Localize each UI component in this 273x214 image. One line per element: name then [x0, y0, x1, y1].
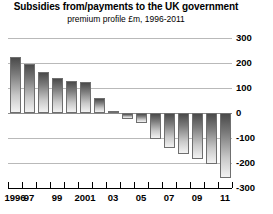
x-axis-tick: [176, 182, 177, 188]
y-axis-tick-label: 200: [236, 58, 270, 68]
bar: [178, 113, 189, 154]
y-axis-tick-label: -200: [236, 158, 270, 168]
bar: [206, 113, 217, 164]
bar: [10, 57, 21, 113]
chart-subtitle: premium profile £m, 1996-2011: [0, 14, 252, 25]
bar: [66, 81, 77, 114]
bar: [80, 82, 91, 113]
x-axis-tick: [120, 182, 121, 188]
x-axis-labels: 1996979920010305070911: [0, 192, 273, 210]
x-axis-tick-label: 11: [220, 192, 230, 203]
x-axis-tick: [148, 182, 149, 188]
bar: [122, 113, 133, 119]
plot-area: [8, 38, 232, 188]
x-axis-tick: [204, 182, 205, 188]
bar: [164, 113, 175, 148]
x-axis-tick: [8, 182, 9, 188]
chart-container: Subsidies from/payments to the UK govern…: [0, 0, 273, 214]
bar-series: [8, 38, 232, 188]
x-axis-tick: [106, 182, 107, 188]
x-axis-tick: [64, 182, 65, 188]
x-axis-tick: [50, 182, 51, 188]
x-axis-tick: [218, 182, 219, 188]
x-axis-tick: [78, 182, 79, 188]
bar: [38, 72, 49, 113]
y-axis-tick-label: 300: [236, 33, 270, 43]
bar: [136, 113, 147, 123]
x-axis-tick-label: 09: [192, 192, 203, 203]
bar: [94, 98, 105, 113]
bar: [108, 111, 119, 114]
x-axis-tick-label: 05: [136, 192, 147, 203]
bar: [24, 64, 35, 113]
x-axis-tick: [22, 182, 23, 188]
bar: [192, 113, 203, 159]
x-axis-tick-label: 03: [108, 192, 119, 203]
x-axis-tick-label: 97: [24, 192, 35, 203]
x-axis-tick: [36, 182, 37, 188]
x-axis-tick: [92, 182, 93, 188]
x-axis-tick-label: 99: [52, 192, 63, 203]
x-axis-line: [8, 188, 232, 189]
x-axis-tick: [190, 182, 191, 188]
y-axis-tick-label: 100: [236, 83, 270, 93]
chart-title: Subsidies from/payments to the UK govern…: [0, 1, 252, 13]
bar: [52, 78, 63, 113]
x-axis-tick: [232, 182, 233, 188]
y-axis-tick-label: 0: [236, 108, 270, 118]
x-axis-tick: [162, 182, 163, 188]
bar: [150, 113, 161, 139]
x-axis-tick-label: 2001: [74, 192, 95, 203]
y-axis-labels: 3002001000-100-200-300: [236, 38, 273, 188]
x-axis-tick-label: 1996: [4, 192, 25, 203]
x-axis-tick: [134, 182, 135, 188]
x-axis-tick-label: 07: [164, 192, 175, 203]
bar: [220, 113, 231, 178]
y-axis-tick-label: -100: [236, 133, 270, 143]
